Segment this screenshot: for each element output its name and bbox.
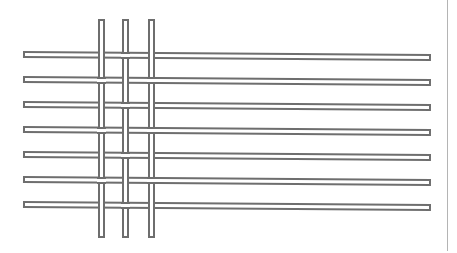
crossing-horizontal-over xyxy=(121,202,130,209)
right-divider-line xyxy=(447,0,448,251)
crossing-horizontal-over xyxy=(121,52,130,59)
crossing-horizontal-over xyxy=(147,127,156,134)
crossing-horizontal-over xyxy=(121,102,130,109)
crossing-horizontal-over xyxy=(97,177,106,184)
crossing-horizontal-over xyxy=(147,77,156,84)
crossing-horizontal-over xyxy=(97,127,106,134)
horizontal-strip xyxy=(23,126,431,136)
crossing-horizontal-over xyxy=(97,77,106,84)
horizontal-strip xyxy=(23,51,431,61)
horizontal-strip xyxy=(23,101,431,111)
horizontal-strip xyxy=(23,176,431,186)
crossing-horizontal-over xyxy=(121,152,130,159)
woven-grid-diagram xyxy=(0,0,457,253)
crossing-horizontal-over xyxy=(147,177,156,184)
horizontal-strip xyxy=(23,76,431,86)
horizontal-strip xyxy=(23,201,431,211)
horizontal-strip xyxy=(23,151,431,161)
